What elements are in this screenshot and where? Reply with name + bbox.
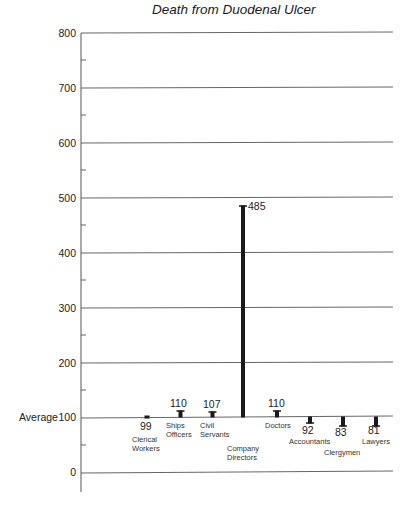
y-tick-200: 200 [36,357,76,369]
value-company-directors: 485 [248,200,266,212]
y-tick-800: 800 [36,27,76,39]
minor-ticks [81,60,86,445]
value-lawyers: 81 [368,424,380,436]
value-clerical-workers: 99 [140,420,152,432]
y-tick-300: 300 [36,302,76,314]
value-civil-servants: 107 [203,398,221,410]
bar-clergymen [342,417,345,426]
value-accountants: 92 [302,424,314,436]
bar-accountants [309,417,312,423]
category-clergymen: Clergymen [324,448,360,457]
bar-ships-officers [179,411,182,417]
bar-doctors [276,411,279,417]
gridlines [81,32,393,473]
category-company-directors: Company Directors [227,444,259,462]
category-clerical-workers: Clerical Workers [132,435,160,453]
y-tick-600: 600 [36,137,76,149]
category-lawyers: Lawyers [362,437,390,446]
value-doctors: 110 [268,397,285,409]
y-tick-500: 500 [36,192,76,204]
bars [145,206,380,426]
bar-company-directors [242,206,245,417]
y-tick-0: 0 [36,466,76,478]
category-doctors: Doctors [265,421,291,430]
average-label: Average [19,411,58,423]
bar-clerical-workers [145,416,149,418]
value-clergymen: 83 [335,426,347,438]
y-tick-400: 400 [36,247,76,259]
value-ships-officers: 110 [170,397,187,409]
y-tick-700: 700 [36,82,76,94]
category-accountants: Accountants [289,437,330,446]
category-civil-servants: Civil Servants [200,421,230,439]
category-ships-officers: Ships Officers [166,421,192,439]
